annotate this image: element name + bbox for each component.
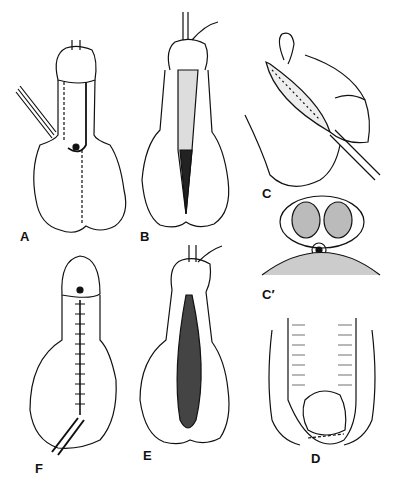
panel-c-drawing [245, 33, 380, 186]
panel-a-drawing [16, 40, 126, 232]
panel-b-drawing [142, 12, 229, 227]
panel-label-c: C [262, 186, 271, 201]
panel-c-prime-drawing [262, 196, 380, 275]
panel-f-drawing [30, 256, 116, 455]
panel-e-drawing [140, 245, 229, 444]
panel-label-f: F [35, 461, 43, 476]
panel-d-drawing [269, 318, 375, 445]
panel-label-b: B [140, 229, 149, 244]
surgical-illustration [0, 0, 396, 482]
panel-label-e: E [143, 448, 152, 463]
panel-label-a: A [20, 229, 29, 244]
panel-label-d: D [311, 451, 320, 466]
panel-label-c-prime: C′ [262, 287, 275, 302]
